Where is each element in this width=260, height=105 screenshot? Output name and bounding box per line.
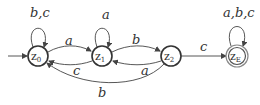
edge-z1-z1 — [95, 28, 109, 47]
edge-label-z1-z0: c — [73, 63, 81, 78]
edge-label-z2-zE: c — [200, 39, 208, 54]
state-z2: z2 — [161, 46, 181, 66]
edge-label-z0-z1: a — [65, 33, 73, 48]
edge-label-z1-z1: a — [102, 7, 110, 22]
automaton-diagram: b,c a c a b a b c a,b,c z0 z1 z2 zE — [0, 0, 260, 105]
state-z0: z0 — [28, 46, 48, 66]
state-sub-z2: 2 — [170, 56, 174, 64]
state-zE: zE — [226, 45, 248, 67]
edge-zE-zE — [229, 27, 244, 47]
state-sub-zE: E — [236, 56, 241, 64]
edge-label-z2-z0: b — [98, 85, 106, 100]
state-sub-z0: 0 — [37, 56, 41, 64]
edge-label-z0-z0: b,c — [30, 5, 50, 20]
edge-z0-z0 — [31, 28, 45, 47]
state-sub-z1: 1 — [101, 56, 105, 64]
state-z1: z1 — [92, 46, 112, 66]
edge-z2-z1 — [113, 61, 161, 65]
edge-label-zE-zE: a,b,c — [223, 5, 255, 20]
edge-z1-z0 — [49, 61, 92, 65]
edge-label-z1-z2: b — [132, 32, 140, 47]
